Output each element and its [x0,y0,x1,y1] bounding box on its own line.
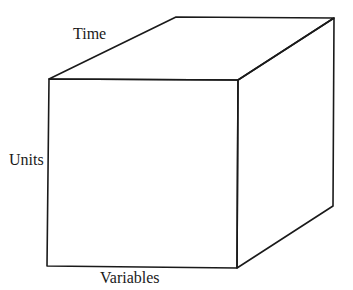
variables-axis-label: Variables [100,270,160,286]
units-axis-label: Units [9,152,44,168]
cube-drawing [0,0,353,290]
cube-front-face [47,79,238,268]
cube-right-face [237,18,334,268]
data-cube-diagram: Time Units Variables [0,0,353,290]
time-axis-label: Time [73,26,106,42]
